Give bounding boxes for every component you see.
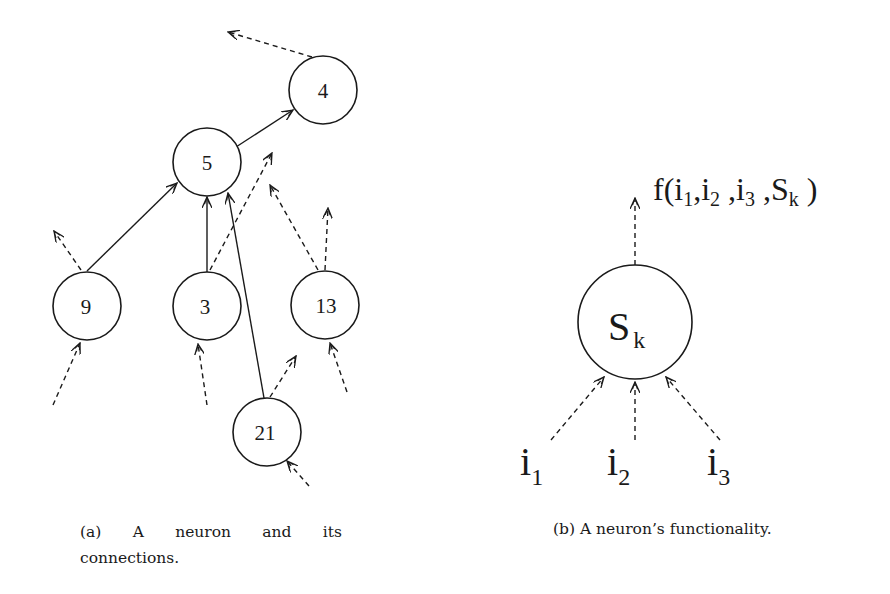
edge-9-output xyxy=(54,231,81,270)
edge-13-output-b xyxy=(325,208,328,270)
caption-a-line2: connections. xyxy=(80,545,342,571)
node-3-label: 3 xyxy=(200,295,211,319)
caption-a-word: and xyxy=(262,519,291,545)
caption-a-tag: (a) xyxy=(80,519,101,545)
edge-3-input xyxy=(198,344,207,405)
figure-a-network: 4 5 9 3 13 21 xyxy=(53,32,359,486)
edge-4-output xyxy=(228,32,312,57)
caption-a: (a) A neuron and its connections. xyxy=(80,519,342,571)
input-1-label: i1 xyxy=(520,439,543,490)
node-13: 13 xyxy=(291,271,359,339)
edge-13-input xyxy=(330,343,347,392)
edge-9-to-5 xyxy=(87,183,177,271)
node-9-label: 9 xyxy=(81,295,92,319)
caption-a-word: A xyxy=(133,519,144,545)
input-2-label: i2 xyxy=(607,439,630,490)
node-3: 3 xyxy=(173,272,241,340)
caption-a-word: its xyxy=(323,519,342,545)
diagram-canvas: 4 5 9 3 13 21 Sk i1 i2 i3 xyxy=(0,0,890,594)
caption-a-word: neuron xyxy=(175,519,231,545)
edge-13-output-a xyxy=(270,185,318,270)
node-5: 5 xyxy=(173,128,241,196)
edge-5-to-4 xyxy=(236,110,293,147)
caption-b: (b) A neuron’s functionality. xyxy=(553,516,772,542)
edge-21-input xyxy=(287,461,309,486)
node-21-label: 21 xyxy=(255,421,276,445)
node-4: 4 xyxy=(289,56,357,124)
node-21: 21 xyxy=(233,398,301,466)
input-1-arrow xyxy=(551,377,604,440)
input-3-label: i3 xyxy=(707,439,730,490)
neuron-sk-circle xyxy=(578,265,692,379)
node-9: 9 xyxy=(53,272,121,340)
input-3-arrow xyxy=(666,377,720,440)
node-4-label: 4 xyxy=(318,79,329,103)
edge-9-input xyxy=(53,343,80,405)
edge-21-output xyxy=(270,356,296,397)
node-5-label: 5 xyxy=(202,151,213,175)
node-13-label: 13 xyxy=(316,294,337,318)
figure-b-neuron: Sk i1 i2 i3 f(i1,i2 ,i3 ,Sk ) xyxy=(520,171,817,490)
output-formula: f(i1,i2 ,i3 ,Sk ) xyxy=(653,171,817,210)
